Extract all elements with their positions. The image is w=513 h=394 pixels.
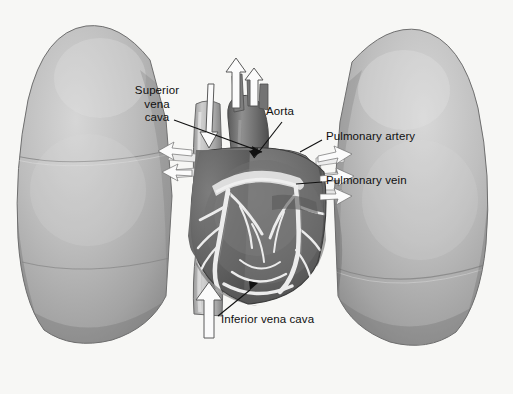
label-pulmonary-vein: Pulmonary vein — [326, 174, 407, 188]
label-superior-vena-cava: Superior vena cava — [126, 84, 188, 125]
left-lung — [10, 26, 178, 352]
label-inferior-vena-cava: Inferior vena cava — [221, 313, 314, 327]
label-aorta: Aorta — [266, 105, 294, 119]
label-pulmonary-artery: Pulmonary artery — [326, 130, 415, 144]
heart-lungs-illustration — [0, 0, 513, 394]
